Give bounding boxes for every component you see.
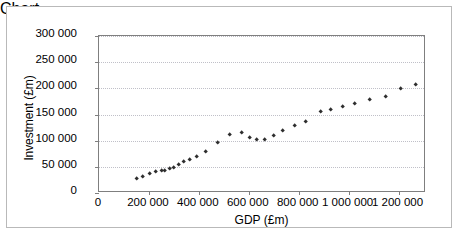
x-axis-tick-label: 1 200 000 — [358, 196, 438, 208]
data-point — [147, 171, 152, 176]
y-axis-tick-label: 0 — [17, 184, 77, 196]
y-axis-tick-label: 200 000 — [17, 79, 77, 91]
data-point — [187, 158, 192, 163]
data-point — [181, 160, 186, 165]
y-axis-tick — [95, 62, 99, 63]
data-point — [328, 107, 333, 112]
data-point — [271, 133, 276, 138]
gridline — [99, 62, 424, 63]
x-axis-tick — [199, 191, 200, 195]
data-point — [194, 154, 199, 159]
x-axis-tick — [299, 191, 300, 195]
data-point — [304, 119, 309, 124]
data-point — [352, 102, 357, 107]
gridline — [99, 88, 424, 89]
x-axis-tick — [349, 191, 350, 195]
data-point — [141, 174, 146, 179]
data-point — [203, 149, 208, 154]
y-axis-tick — [95, 167, 99, 168]
y-axis-tick-label: 100 000 — [17, 132, 77, 144]
gridline — [99, 167, 424, 168]
x-axis-tick — [399, 191, 400, 195]
data-point — [292, 123, 297, 128]
data-point — [171, 165, 176, 170]
y-axis-tick-label: 300 000 — [17, 27, 77, 39]
y-axis-tick-label: 150 000 — [17, 106, 77, 118]
y-axis-tick — [95, 88, 99, 89]
data-point — [239, 130, 244, 135]
data-point — [413, 82, 418, 87]
data-point — [340, 104, 345, 109]
y-axis-tick-label: 50 000 — [17, 158, 77, 170]
gridline — [99, 141, 424, 142]
x-axis-tick — [149, 191, 150, 195]
gridline — [99, 36, 424, 37]
data-point — [368, 97, 373, 102]
y-axis-tick — [95, 193, 99, 194]
figure-frame: Investment (£m) 050 000100 000150 000200… — [6, 6, 452, 228]
data-point — [398, 86, 403, 91]
plot-area — [98, 35, 425, 192]
data-point — [227, 132, 232, 137]
y-axis-tick — [95, 141, 99, 142]
x-axis-title: GDP (£m) — [98, 213, 425, 227]
data-point — [135, 176, 140, 181]
y-axis-tick-label: 250 000 — [17, 53, 77, 65]
data-point — [154, 169, 159, 174]
y-axis-tick — [95, 115, 99, 116]
data-point — [280, 128, 285, 133]
gridline — [99, 115, 424, 116]
x-axis-tick — [249, 191, 250, 195]
data-point — [383, 94, 388, 99]
data-point — [247, 135, 252, 140]
y-axis-tick — [95, 36, 99, 37]
